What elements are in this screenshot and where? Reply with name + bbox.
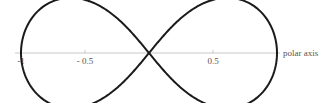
tick-label: 0.5 (207, 56, 219, 66)
lemniscate-curve (21, 0, 277, 103)
lemniscate-diagram: -1- 0.50.5 polar axis (0, 0, 329, 103)
tick-label: - 0.5 (77, 56, 94, 66)
axis-ticks: -1- 0.50.5 (17, 50, 219, 66)
polar-axis-label: polar axis (283, 48, 319, 58)
